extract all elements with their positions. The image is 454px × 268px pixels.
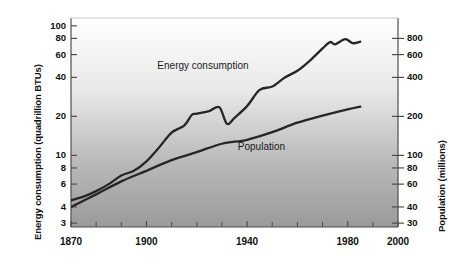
series-annotation-label: Population <box>238 141 285 152</box>
y-tick-label-left: 80 <box>36 32 66 43</box>
y-tick-label-right: 30 <box>407 217 418 228</box>
x-tick-label: 1870 <box>51 236 91 247</box>
chart-figure: Energy consumption (quadrillion BTUs) Po… <box>0 0 454 268</box>
y-tick-label-right: 60 <box>407 178 418 189</box>
y-tick-label-right: 40 <box>407 201 418 212</box>
y-tick-label-left: 10 <box>36 149 66 160</box>
x-tick-label: 1900 <box>126 236 166 247</box>
x-tick-label: 1940 <box>227 236 267 247</box>
chart-plot-area <box>0 0 454 268</box>
y-tick-label-right: 800 <box>407 32 423 43</box>
x-tick-label: 1980 <box>328 236 368 247</box>
y-tick-label-right: 600 <box>407 49 423 60</box>
y-tick-label-right: 80 <box>407 162 418 173</box>
y-tick-label-left: 60 <box>36 49 66 60</box>
y-tick-label-right: 100 <box>407 149 423 160</box>
y-tick-label-left: 3 <box>36 217 66 228</box>
y-tick-label-left: 20 <box>36 110 66 121</box>
y-tick-label-left: 8 <box>36 162 66 173</box>
y-tick-label-left: 6 <box>36 178 66 189</box>
y-tick-label-right: 200 <box>407 110 423 121</box>
y-axis-title-right: Population (millions) <box>436 140 447 232</box>
x-tick-label: 2000 <box>378 236 418 247</box>
y-tick-label-left: 40 <box>36 71 66 82</box>
y-tick-label-right: 400 <box>407 71 423 82</box>
y-tick-label-left: 100 <box>36 20 66 31</box>
plot-background <box>71 18 398 227</box>
y-tick-label-left: 4 <box>36 201 66 212</box>
series-annotation-label: Energy consumption <box>157 60 248 71</box>
